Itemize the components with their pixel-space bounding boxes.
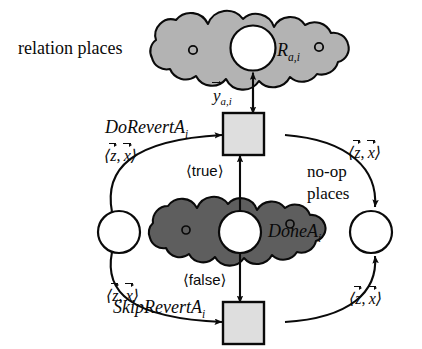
zx-comma: , — [360, 144, 367, 161]
vector-arrow-accent — [109, 143, 116, 144]
z-vector: z — [355, 291, 361, 307]
y-vector: y — [213, 87, 221, 104]
noop-places-label-line1: no-op — [307, 163, 347, 180]
arc-false-label-text: false — [189, 271, 221, 288]
vector-arrow-accent — [354, 286, 361, 287]
x-vector: x — [124, 148, 131, 164]
done-cloud-label-base: DoneA — [268, 221, 318, 241]
vector-arrow-accent — [368, 286, 376, 287]
arc-zx-bottom-left-label: ⟨z, x⟩ — [106, 288, 139, 304]
vector-arrow-accent — [212, 82, 221, 83]
arc-zx-top-right-label: ⟨z, x⟩ — [348, 145, 381, 161]
angle-bracket-close-icon: ⟩ — [376, 289, 382, 308]
arc-y-label: ya,i — [213, 87, 232, 107]
angle-bracket-close-icon: ⟩ — [218, 162, 224, 180]
z-vector: z — [354, 145, 360, 161]
petri-net-diagram: relation places Ra,i ya,i DoRevertAi Ski… — [0, 0, 422, 349]
noop-place-left — [98, 211, 140, 253]
done-cloud-label: DoneAi — [268, 222, 321, 244]
relation-cloud-label: Ra,i — [277, 41, 300, 63]
transition-do-revert-label: DoRevertAi — [105, 118, 188, 140]
angle-bracket-close-icon: ⟩ — [133, 286, 139, 305]
zx-var-z: z — [355, 290, 361, 307]
arc-true-label-text: true — [192, 162, 218, 179]
arc-true-label: ⟨true⟩ — [186, 163, 224, 179]
vector-arrow-accent — [123, 143, 131, 144]
x-vector: x — [369, 291, 376, 307]
zx-comma: , — [116, 147, 123, 164]
z-vector: z — [110, 148, 116, 164]
x-vector: x — [126, 288, 133, 304]
angle-bracket-close-icon: ⟩ — [221, 271, 227, 289]
zx-var-z: z — [112, 287, 118, 304]
zx-var-z: z — [354, 144, 360, 161]
zx-comma: , — [118, 287, 125, 304]
zx-var-x: x — [124, 147, 131, 164]
arc-false-label: ⟨false⟩ — [183, 272, 226, 288]
transition-skip-revert — [223, 302, 264, 344]
vector-arrow-accent — [353, 140, 360, 141]
angle-bracket-close-icon: ⟩ — [131, 146, 137, 165]
done-cloud-label-sub: i — [318, 232, 321, 244]
zx-var-x: x — [369, 290, 376, 307]
arc-zx-bottom-right-label: ⟨z, x⟩ — [349, 291, 382, 307]
z-vector: z — [112, 288, 118, 304]
vector-arrow-accent — [125, 283, 133, 284]
relation-places-label: relation places — [18, 39, 122, 57]
skip-revert-label-sub: i — [202, 308, 205, 320]
do-revert-label-sub: i — [185, 128, 188, 140]
angle-bracket-close-icon: ⟩ — [375, 143, 381, 162]
arc-y-label-base: y — [213, 86, 221, 105]
zx-var-z: z — [110, 147, 116, 164]
vector-arrow-accent — [367, 140, 375, 141]
arc-zx-top-left-label: ⟨z, x⟩ — [104, 148, 137, 164]
x-vector: x — [368, 145, 375, 161]
zx-comma: , — [361, 290, 368, 307]
zx-var-x: x — [368, 144, 375, 161]
transition-do-revert — [223, 113, 264, 155]
relation-cloud-label-sub: a,i — [288, 51, 300, 63]
vector-arrow-accent — [111, 283, 118, 284]
done-place — [219, 211, 261, 253]
zx-var-x: x — [126, 287, 133, 304]
noop-places-label-line2: places — [307, 185, 349, 202]
relation-cloud-label-base: R — [277, 40, 288, 60]
arc-y-label-sub: a,i — [221, 95, 232, 107]
relation-place — [231, 26, 276, 71]
do-revert-label-base: DoRevertA — [105, 117, 185, 137]
noop-place-right — [350, 211, 392, 253]
